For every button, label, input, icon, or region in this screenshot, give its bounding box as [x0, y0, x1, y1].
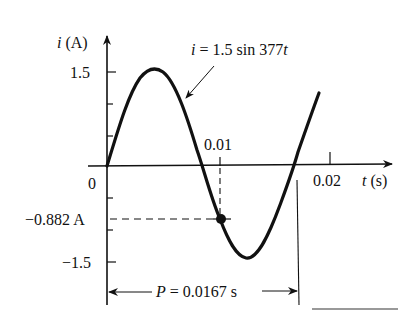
equation-label: i = 1.5 sin 377t — [191, 41, 288, 58]
y-tick-label-neg-1-5: −1.5 — [62, 254, 91, 271]
x-tick-label-0-02: 0.02 — [313, 172, 341, 189]
period-end-line — [297, 180, 299, 305]
sine-curve — [107, 69, 319, 258]
sine-current-diagram: i(A) i = 1.5 sin 377t 1.5 0 −0.882 A −1.… — [0, 0, 415, 320]
equation-leader-arrow — [186, 66, 214, 98]
y-ticks — [107, 72, 116, 262]
x-tick-label-0-01: 0.01 — [204, 136, 232, 153]
y-tick-label-1-5: 1.5 — [70, 64, 90, 81]
marked-point — [213, 214, 231, 224]
x-axis — [88, 164, 392, 166]
period-label: P = 0.0167 s — [155, 283, 237, 300]
y-tick-label-neg-0-882: −0.882 A — [25, 211, 85, 228]
x-axis-label: t(s) — [362, 172, 387, 190]
y-axis-label: i(A) — [57, 34, 88, 52]
y-tick-label-0: 0 — [88, 175, 96, 192]
